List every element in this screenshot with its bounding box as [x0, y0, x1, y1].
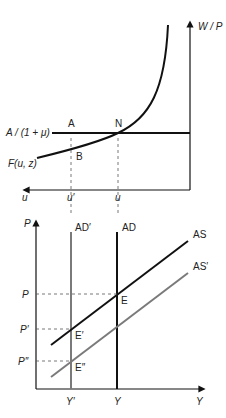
- as-prime-label: AS′: [193, 261, 208, 272]
- as-label: AS: [193, 229, 207, 240]
- wage-setting-curve: [37, 25, 168, 158]
- top-y-axis-label: W / P: [198, 21, 223, 32]
- bottom-panel: P Y AD′ AD AS AS′ E E′ E″ P P′ P″ Y′ Y: [18, 218, 208, 407]
- tick-u: u: [115, 192, 121, 203]
- tick-p-dprime: P″: [18, 356, 29, 367]
- tick-u-prime: u′: [67, 192, 76, 203]
- point-b-label: B: [76, 151, 83, 162]
- top-x-axis-label: u: [22, 192, 28, 203]
- point-e-dprime-label: E″: [75, 362, 86, 373]
- tick-p: P: [22, 289, 29, 300]
- price-setting-label: A / (1 + μ): [5, 127, 50, 138]
- ad-prime-label: AD′: [75, 222, 91, 233]
- top-panel: W / P u A / (1 + μ) F(u, z) A N B u′ u: [5, 21, 223, 215]
- ad-label: AD: [122, 222, 136, 233]
- bottom-x-axis-label: Y: [196, 396, 204, 407]
- diagram-canvas: W / P u A / (1 + μ) F(u, z) A N B u′ u P…: [0, 0, 226, 418]
- bottom-y-axis-label: P: [24, 218, 31, 229]
- wage-setting-label: F(u, z): [8, 158, 37, 169]
- point-a-label: A: [68, 118, 75, 129]
- point-e-prime-label: E′: [75, 330, 84, 341]
- point-e-label: E: [121, 295, 128, 306]
- tick-y: Y: [114, 396, 122, 407]
- point-n-label: N: [115, 118, 122, 129]
- tick-p-prime: P′: [20, 324, 30, 335]
- tick-y-prime: Y′: [66, 396, 76, 407]
